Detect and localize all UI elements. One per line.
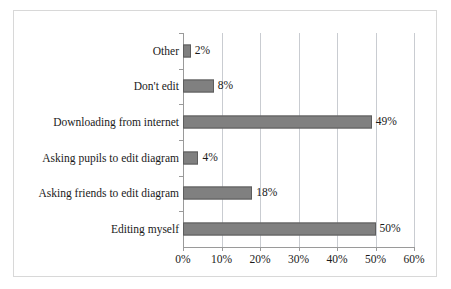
gridline-60 — [414, 33, 415, 247]
bar-value-label: 50% — [376, 223, 401, 235]
y-axis-tick — [179, 176, 183, 177]
y-axis-category-label: Downloading from internet — [53, 116, 179, 129]
y-axis-label-row: Editing myself — [24, 211, 179, 247]
x-axis-tick — [183, 247, 184, 251]
y-axis-label-row: Don't edit — [24, 69, 179, 105]
y-axis-tick — [179, 69, 183, 70]
y-axis-category-labels: Editing myselfAsking friends to edit dia… — [24, 33, 179, 247]
y-axis-tick — [179, 211, 183, 212]
bar-value-label: 49% — [372, 116, 397, 128]
y-axis-label-row: Downloading from internet — [24, 104, 179, 140]
y-axis-label-row: Asking friends to edit diagram — [24, 176, 179, 212]
y-axis-label-row: Other — [24, 33, 179, 69]
bar-row: 50% — [183, 211, 414, 247]
x-axis-tick — [299, 247, 300, 251]
x-axis-tick-label: 30% — [288, 254, 309, 266]
plot-area: 50%18%4%49%8%2% — [183, 33, 414, 247]
bar-value-label: 18% — [252, 188, 277, 200]
x-axis-tick — [222, 247, 223, 251]
bar-row: 4% — [183, 140, 414, 176]
x-axis-tick — [260, 247, 261, 251]
bar-row: 2% — [183, 33, 414, 69]
y-axis-category-label: Asking pupils to edit diagram — [42, 152, 179, 165]
bar-row: 8% — [183, 69, 414, 105]
x-axis-tick-label: 40% — [326, 254, 347, 266]
bar-value-label: 2% — [191, 45, 210, 57]
chart-frame: Editing myselfAsking friends to edit dia… — [13, 10, 437, 277]
y-axis-category-label: Asking friends to edit diagram — [38, 187, 179, 200]
x-axis-tick-label: 10% — [211, 254, 232, 266]
bar[interactable] — [183, 187, 252, 200]
x-axis-tick-label: 0% — [175, 254, 190, 266]
y-axis-category-label: Other — [153, 45, 179, 58]
x-axis-tick — [376, 247, 377, 251]
x-axis-tick-labels: 0%10%20%30%40%50%60% — [183, 254, 414, 272]
bar[interactable] — [183, 223, 376, 236]
y-axis-tick — [179, 33, 183, 34]
y-axis-category-label: Don't edit — [134, 80, 179, 93]
y-axis-label-row: Asking pupils to edit diagram — [24, 140, 179, 176]
x-axis-tick — [337, 247, 338, 251]
bar-row: 18% — [183, 176, 414, 212]
bar[interactable] — [183, 151, 198, 164]
x-axis-tick-label: 60% — [403, 254, 424, 266]
bar-row: 49% — [183, 104, 414, 140]
bar[interactable] — [183, 44, 191, 57]
x-axis-tick-label: 50% — [365, 254, 386, 266]
x-axis-tick-label: 20% — [249, 254, 270, 266]
y-axis-tick — [179, 104, 183, 105]
y-axis-category-label: Editing myself — [111, 223, 179, 236]
y-axis-tick — [179, 140, 183, 141]
bar[interactable] — [183, 80, 214, 93]
x-axis-tick — [414, 247, 415, 251]
bar[interactable] — [183, 116, 372, 129]
bar-value-label: 8% — [214, 81, 233, 93]
bar-value-label: 4% — [198, 152, 217, 164]
